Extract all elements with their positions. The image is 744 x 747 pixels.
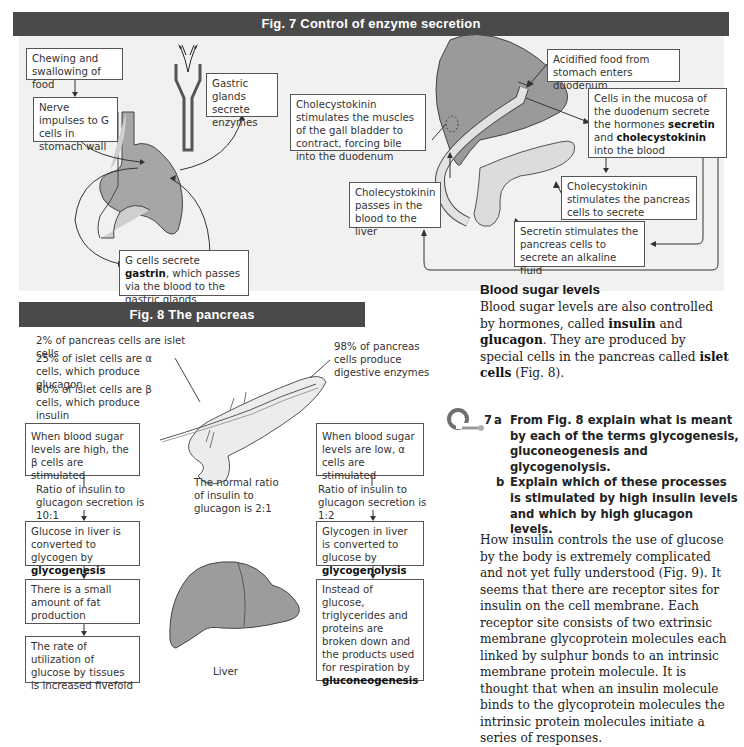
secretin-term: secretin bbox=[668, 119, 715, 130]
mucosa-text-post: into the blood bbox=[594, 145, 665, 156]
gastrin-box: G cells secrete gastrin, which passes vi… bbox=[119, 250, 249, 296]
question-icon bbox=[449, 410, 484, 431]
glycogenolysis-text-pre: Glycogen in liver is converted to glucos… bbox=[322, 526, 408, 563]
high-blood-sugar-box: When blood sugar levels are high, the β … bbox=[25, 423, 140, 476]
ratio-low-value: Ratio of insulin to glucagon secretion i… bbox=[318, 484, 426, 521]
glucagon-term: glucagon bbox=[480, 333, 543, 347]
glycogenolysis-box: Glycogen in liver is converted to glucos… bbox=[316, 521, 424, 566]
liver-label: Liver bbox=[213, 665, 238, 678]
fat-production-text: There is a small amount of fat productio… bbox=[31, 584, 111, 621]
low-blood-sugar-text: When blood sugar levels are low, α cells… bbox=[322, 431, 415, 481]
question-a-label: a bbox=[494, 413, 502, 427]
normal-ratio-text: The normal ratio of insulin to glucagon … bbox=[194, 477, 279, 514]
section-heading: Blood sugar levels bbox=[480, 282, 600, 297]
liver-label-text: Liver bbox=[213, 666, 238, 677]
beta-fact: 60% of islet cells are β cells, which pr… bbox=[36, 383, 166, 422]
acidified-food-box: Acidified food from stomach enters duode… bbox=[547, 49, 680, 82]
insulin-term: insulin bbox=[608, 317, 655, 331]
glycogenesis-term: glycogenesis bbox=[31, 565, 105, 576]
glycogenesis-box: Glucose in liver is converted to glycoge… bbox=[25, 521, 140, 566]
question-7a: 7a From Fig. 8 explain what is meant by … bbox=[484, 413, 739, 475]
question-b-label: b bbox=[496, 475, 504, 491]
gastric-glands-text: Gastric glands secrete enzymes bbox=[212, 78, 258, 128]
pancreas-icon-fig8 bbox=[189, 376, 326, 484]
fig7-title-bar: Fig. 7 Control of enzyme secretion bbox=[13, 12, 729, 36]
gastrin-text-pre: G cells secrete bbox=[125, 255, 200, 266]
liver-icon-fig8 bbox=[170, 562, 299, 648]
cholecystokinin-term: cholecystokinin bbox=[616, 132, 706, 143]
question-number-value: 7 bbox=[484, 413, 492, 427]
high-blood-sugar-text: When blood sugar levels are high, the β … bbox=[31, 431, 129, 481]
ratio-low-text: Ratio of insulin to glucagon secretion i… bbox=[318, 483, 428, 522]
gastrin-term: gastrin bbox=[125, 268, 166, 279]
beta-fact-text: 60% of islet cells are β cells, which pr… bbox=[36, 384, 152, 421]
gastric-glands-box: Gastric glands secrete enzymes bbox=[206, 73, 278, 117]
normal-ratio-fact: The normal ratio of insulin to glucagon … bbox=[194, 476, 284, 515]
fig8-title-bar: Fig. 8 The pancreas bbox=[19, 302, 365, 327]
insulin-paragraph: How insulin controls the use of glucose … bbox=[480, 532, 736, 747]
intro-text-c: (Fig. 8). bbox=[511, 366, 564, 380]
glycogenesis-text-pre: Glucose in liver is converted to glycoge… bbox=[31, 526, 121, 563]
question-number: 7a bbox=[484, 413, 502, 429]
intro-paragraph: Blood sugar levels are also controlled b… bbox=[480, 299, 730, 382]
intro-text-and: and bbox=[656, 317, 683, 331]
question-7b: b Explain which of these processes is st… bbox=[484, 475, 739, 537]
gluconeogenesis-term: gluconeogenesis bbox=[322, 675, 418, 686]
cck-gall-bladder-box: Cholecystokinin stimulates the muscles o… bbox=[290, 94, 426, 151]
question-a-text: From Fig. 8 explain what is meant by eac… bbox=[510, 413, 739, 474]
nerve-impulses-text: Nerve impulses to G cells in stomach wal… bbox=[39, 102, 109, 152]
cck-pancreas-box: Cholecystokinin stimulates the pancreas … bbox=[561, 176, 697, 220]
utilization-box: The rate of utilization of glucose by ti… bbox=[25, 636, 140, 683]
fig7-title: Fig. 7 Control of enzyme secretion bbox=[261, 16, 480, 31]
nerve-impulses-box: Nerve impulses to G cells in stomach wal… bbox=[33, 97, 118, 142]
ratio-high-value: Ratio of insulin to glucagon secretion i… bbox=[36, 484, 144, 521]
gluconeogenesis-text-pre: Instead of glucose, triglycerides and pr… bbox=[322, 584, 414, 673]
mucosa-text-mid: and bbox=[594, 132, 616, 143]
fig8-title: Fig. 8 The pancreas bbox=[129, 307, 254, 322]
insulin-paragraph-text: How insulin controls the use of glucose … bbox=[480, 533, 727, 745]
utilization-text: The rate of utilization of glucose by ti… bbox=[31, 641, 133, 691]
digestive-fact-text: 98% of pancreas cells produce digestive … bbox=[334, 341, 429, 378]
chewing-box: Chewing and swallowing of food bbox=[26, 48, 123, 80]
mucosa-hormones-box: Cells in the mucosa of the duodenum secr… bbox=[588, 88, 727, 158]
cck-liver-box: Cholecystokinin passes in the blood to t… bbox=[349, 182, 441, 228]
question-b-text: Explain which of these processes is stim… bbox=[510, 475, 738, 536]
gluconeogenesis-box: Instead of glucose, triglycerides and pr… bbox=[316, 579, 424, 681]
fat-production-box: There is a small amount of fat productio… bbox=[25, 579, 140, 624]
glycogenolysis-term: glycogenolysis bbox=[322, 565, 407, 576]
question-7: 7a From Fig. 8 explain what is meant by … bbox=[484, 413, 739, 538]
digestive-fact: 98% of pancreas cells produce digestive … bbox=[334, 340, 434, 379]
ratio-high-text: Ratio of insulin to glucagon secretion i… bbox=[36, 483, 166, 522]
secretin-box: Secretin stimulates the pancreas cells t… bbox=[514, 221, 645, 267]
low-blood-sugar-box: When blood sugar levels are low, α cells… bbox=[316, 423, 424, 476]
